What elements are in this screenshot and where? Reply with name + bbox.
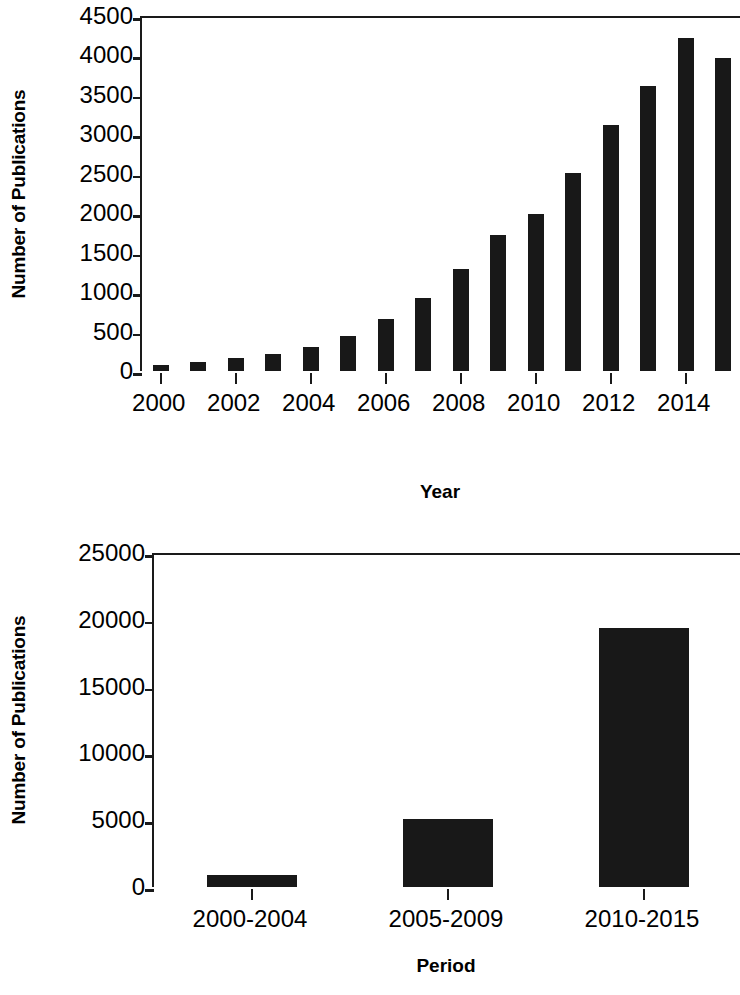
x-tick-label: 2000-2004 <box>193 907 308 931</box>
y-tick-label: 0 <box>0 875 152 899</box>
x-tick-label: 2014 <box>657 391 710 415</box>
y-axis-title-bottom-text: Number of Publications <box>8 616 30 825</box>
x-tick-label: 2004 <box>282 391 335 415</box>
bar <box>378 319 394 371</box>
y-axis-title-top: Number of Publications <box>2 16 36 371</box>
x-tick-label: 2000 <box>132 391 185 415</box>
x-tick-mark <box>160 373 163 384</box>
y-tick-mark <box>145 689 154 692</box>
x-tick-mark <box>310 373 313 384</box>
bar-series-top <box>142 18 740 371</box>
publications-by-year-chart: Number of Publications 45004000350030002… <box>0 0 733 495</box>
x-tick-mark <box>251 889 254 900</box>
y-tick-label: 5000 <box>0 808 152 832</box>
y-tick-label: 500 <box>0 320 140 344</box>
x-axis-title-top: Year <box>420 481 460 503</box>
y-tick-mark <box>133 18 142 21</box>
y-tick-mark <box>133 373 142 376</box>
bar <box>453 269 469 371</box>
bar <box>640 86 656 371</box>
x-tick-mark <box>385 373 388 384</box>
x-tick-label: 2006 <box>357 391 410 415</box>
x-tick-label: 2008 <box>432 391 485 415</box>
y-tick-mark <box>133 97 142 100</box>
bar-series-bottom <box>154 555 740 887</box>
y-tick-label: 20000 <box>0 608 152 632</box>
y-axis-title-top-text: Number of Publications <box>8 89 30 298</box>
y-tick-mark <box>133 255 142 258</box>
y-tick-mark <box>145 889 154 892</box>
x-tick-label: 2010-2015 <box>585 907 700 931</box>
y-tick-label: 1000 <box>0 280 140 304</box>
y-tick-label: 0 <box>0 359 140 383</box>
y-tick-mark <box>133 334 142 337</box>
y-tick-label: 3000 <box>0 122 140 146</box>
x-tick-label: 2005-2009 <box>389 907 504 931</box>
y-tick-mark <box>133 136 142 139</box>
x-tick-mark <box>235 373 238 384</box>
bar <box>403 819 493 887</box>
bar <box>303 347 319 371</box>
publications-by-period-chart: Number of Publications 25000200001500010… <box>0 505 733 995</box>
x-tick-label: 2012 <box>582 391 635 415</box>
y-tick-mark <box>133 57 142 60</box>
x-tick-mark <box>447 889 450 900</box>
bar <box>528 214 544 371</box>
bar <box>715 58 731 371</box>
bar <box>565 173 581 371</box>
bar <box>228 358 244 371</box>
bar <box>415 298 431 371</box>
y-tick-mark <box>145 622 154 625</box>
x-tick-mark <box>535 373 538 384</box>
y-tick-label: 15000 <box>0 675 152 699</box>
y-tick-mark <box>133 294 142 297</box>
y-tick-label: 2000 <box>0 201 140 225</box>
y-tick-mark <box>145 755 154 758</box>
plot-area-top <box>140 16 740 371</box>
bar <box>207 875 297 887</box>
y-tick-mark <box>133 215 142 218</box>
y-tick-label: 25000 <box>0 541 152 565</box>
y-tick-label: 4000 <box>0 43 140 67</box>
y-tick-label: 2500 <box>0 162 140 186</box>
plot-area-bottom <box>152 553 740 887</box>
y-axis-title-bottom: Number of Publications <box>2 553 36 887</box>
x-axis-title-bottom: Period <box>416 955 475 977</box>
x-tick-mark <box>610 373 613 384</box>
y-tick-mark <box>133 176 142 179</box>
y-tick-mark <box>145 555 154 558</box>
x-tick-label: 2010 <box>507 391 560 415</box>
y-tick-mark <box>145 822 154 825</box>
bar <box>340 336 356 372</box>
y-tick-label: 4500 <box>0 4 140 28</box>
x-tick-mark <box>685 373 688 384</box>
x-tick-label: 2002 <box>207 391 260 415</box>
y-tick-label: 10000 <box>0 741 152 765</box>
x-tick-mark <box>460 373 463 384</box>
x-tick-mark <box>643 889 646 900</box>
bar <box>599 628 689 887</box>
bar <box>678 38 694 371</box>
y-tick-label: 3500 <box>0 83 140 107</box>
y-tick-label: 1500 <box>0 241 140 265</box>
bar <box>190 362 206 371</box>
bar <box>265 354 281 371</box>
bar <box>153 365 169 371</box>
bar <box>490 235 506 371</box>
bar <box>603 125 619 371</box>
